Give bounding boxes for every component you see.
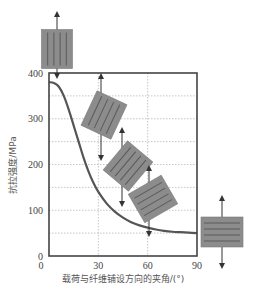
x-tick-label: 90 [192, 260, 202, 271]
sample-body [81, 91, 127, 139]
y-tick-label: 100 [28, 205, 43, 216]
y-tick-label: 400 [28, 68, 43, 79]
y-tick-label: 300 [28, 113, 43, 124]
y-axis-ticks: 0100200300400 [28, 68, 43, 262]
sample-body [201, 217, 243, 247]
fiber-sample-0deg [42, 14, 73, 76]
fiber-sample-30deg [81, 76, 127, 158]
x-tick-label: 0 [39, 260, 44, 271]
y-axis-label: 抗拉强度/MPa [7, 136, 18, 193]
x-axis-ticks: 0306090 [39, 260, 203, 271]
x-axis-label: 载荷与纤维铺设方向的夹角/(°) [62, 273, 185, 284]
tensile-strength-chart: 0100200300400 0306090 抗拉强度/MPa 载荷与纤维铺设方向… [0, 0, 255, 292]
sample-body [103, 141, 153, 191]
x-tick-label: 30 [93, 260, 103, 271]
fiber-samples [42, 14, 244, 266]
x-tick-label: 60 [143, 260, 153, 271]
y-tick-label: 200 [28, 159, 43, 170]
fiber-sample-90deg [201, 198, 243, 266]
sample-body [42, 30, 73, 69]
